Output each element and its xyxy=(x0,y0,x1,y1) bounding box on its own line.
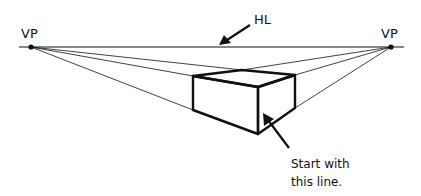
vp-left-label: VP xyxy=(21,26,38,41)
arrowhead-icon xyxy=(219,35,231,45)
perspective-box xyxy=(193,70,295,134)
vp-right-label: VP xyxy=(381,26,398,41)
instruction-line-1: Start with xyxy=(291,157,350,171)
right-vp-guide-lines xyxy=(242,47,391,108)
perspective-diagram: VP VP HL Start with this line. xyxy=(0,0,421,196)
start-line-arrow xyxy=(263,113,289,148)
box-left-face xyxy=(193,76,258,134)
horizon-arrow xyxy=(219,25,250,45)
vanishing-point-left xyxy=(28,44,33,49)
instruction-line-2: this line. xyxy=(291,175,342,189)
vanishing-point-right xyxy=(388,44,393,49)
horizon-label: HL xyxy=(254,12,272,27)
box-right-face xyxy=(258,75,295,134)
